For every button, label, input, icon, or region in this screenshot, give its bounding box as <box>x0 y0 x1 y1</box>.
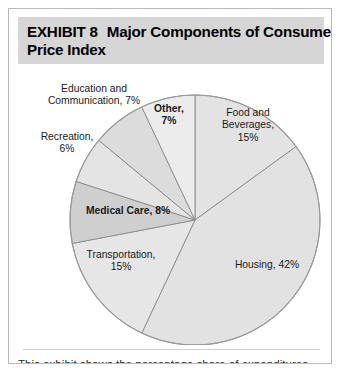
exhibit-title-part-2: Price Index <box>27 41 106 58</box>
pie-label-housing-text: Housing, 42% <box>215 259 319 271</box>
pie-label-other-line-2: 7% <box>143 115 195 127</box>
pie-label-other-line-1: Other, <box>143 103 195 115</box>
pie-label-housing: Housing, 42% <box>215 259 319 271</box>
footer-divider <box>23 349 320 350</box>
pie-label-food-and-beverages: Food and Beverages, 15% <box>205 107 291 144</box>
exhibit-card: EXHIBIT 8Major Components of Consumer Pr… <box>8 8 332 364</box>
pie-label-medical-text: Medical Care, 8% <box>63 205 193 217</box>
exhibit-header-line-1: EXHIBIT 8Major Components of Consumer <box>27 23 316 41</box>
pie-label-recreation-line-2: 6% <box>21 143 113 155</box>
pie-chart: Education and Communication, 7% Recreati… <box>9 65 332 345</box>
exhibit-caption: This exhibit shows the percentage share … <box>18 357 332 364</box>
pie-label-transportation: Transportation, 15% <box>61 249 181 274</box>
pie-label-food-line-3: 15% <box>205 132 291 144</box>
pie-label-other: Other, 7% <box>143 103 195 128</box>
pie-label-transport-line-2: 15% <box>61 261 181 273</box>
pie-label-transport-line-1: Transportation, <box>61 249 181 261</box>
exhibit-number-label: EXHIBIT 8 <box>27 23 98 40</box>
exhibit-title-part-1: Major Components of Consumer <box>107 23 332 40</box>
pie-label-medical-care: Medical Care, 8% <box>63 205 193 217</box>
exhibit-header: EXHIBIT 8Major Components of Consumer Pr… <box>18 17 324 64</box>
pie-label-education-line-1: Education and <box>21 83 167 95</box>
pie-label-food-line-2: Beverages, <box>205 119 291 131</box>
pie-label-recreation-line-1: Recreation, <box>21 131 113 143</box>
pie-label-recreation: Recreation, 6% <box>21 131 113 156</box>
exhibit-header-line-2: Price Index <box>27 41 316 59</box>
pie-label-food-line-1: Food and <box>205 107 291 119</box>
